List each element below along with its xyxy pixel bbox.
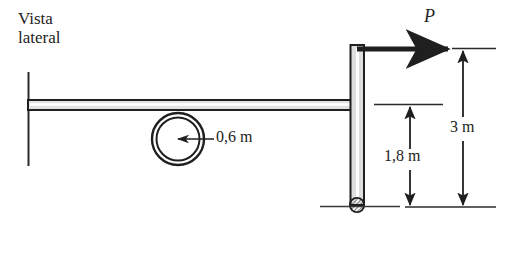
view-label: Vista lateral	[18, 9, 60, 47]
lower-dimension-label: 1,8 m	[384, 147, 420, 165]
total-dimension-label: 3 m	[450, 118, 474, 136]
diagram-canvas	[0, 0, 507, 267]
mechanics-figure: Vista lateral P 0,6 m 1,8 m 3 m	[0, 0, 507, 267]
force-label: P	[424, 6, 435, 26]
pin-support-icon	[350, 198, 364, 212]
wheel-diameter-label: 0,6 m	[216, 128, 252, 146]
